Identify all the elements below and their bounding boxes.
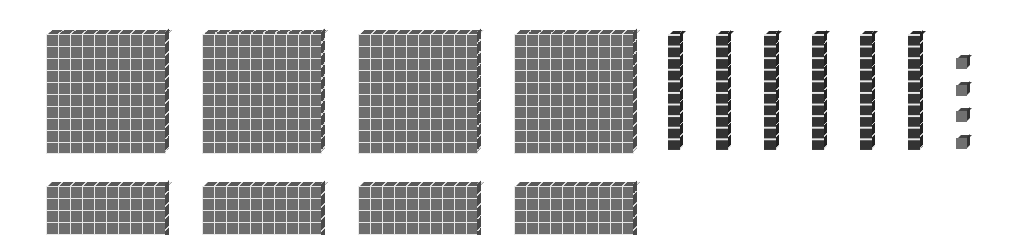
hundreds-flat-side-face: [477, 180, 481, 235]
ones-unit-cube-side-face: [967, 134, 970, 148]
hundreds-flat-side-face: [633, 28, 637, 152]
tens-rod-top-face: [862, 31, 878, 34]
ones-unit-cube: [956, 138, 967, 149]
hundreds-flat-top-face: [204, 182, 328, 186]
hundreds-flat: [202, 34, 322, 154]
hundreds-flat-top-face: [204, 30, 328, 34]
tens-rod: [908, 34, 921, 150]
hundreds-flat-top-face: [516, 182, 640, 186]
tens-rod-side-face: [680, 30, 683, 149]
tens-rod-top-face: [910, 31, 926, 34]
tens-rod-top-face: [718, 31, 734, 34]
ones-unit-cube: [956, 58, 967, 69]
tens-rod-side-face: [728, 30, 731, 149]
tens-rod-top-face: [670, 31, 686, 34]
tens-rod: [860, 34, 873, 150]
hundreds-flat: [46, 34, 166, 154]
tens-rod-side-face: [824, 30, 827, 149]
tens-rod-side-face: [872, 30, 875, 149]
tens-rod: [716, 34, 729, 150]
hundreds-flat: [202, 186, 322, 235]
hundreds-flat-top-face: [48, 30, 172, 34]
tens-rod: [668, 34, 681, 150]
tens-rod-side-face: [920, 30, 923, 149]
hundreds-flat-side-face: [321, 28, 325, 152]
hundreds-flat-side-face: [165, 180, 169, 235]
hundreds-flat-side-face: [165, 28, 169, 152]
hundreds-flat-top-face: [516, 30, 640, 34]
hundreds-flat: [46, 186, 166, 235]
ones-unit-cube-side-face: [967, 107, 970, 121]
hundreds-flat-side-face: [321, 180, 325, 235]
tens-rod-side-face: [776, 30, 779, 149]
hundreds-flat-top-face: [48, 182, 172, 186]
ones-unit-cube-side-face: [967, 81, 970, 95]
tens-rod: [764, 34, 777, 150]
tens-rod-top-face: [766, 31, 782, 34]
hundreds-flat: [358, 34, 478, 154]
tens-rod-top-face: [814, 31, 830, 34]
hundreds-flat-top-face: [360, 30, 484, 34]
tens-rod: [812, 34, 825, 150]
hundreds-flat-side-face: [633, 180, 637, 235]
hundreds-flat: [514, 186, 634, 235]
ones-unit-cube: [956, 111, 967, 122]
hundreds-flat: [358, 186, 478, 235]
hundreds-flat: [514, 34, 634, 154]
hundreds-flat-top-face: [360, 182, 484, 186]
hundreds-flat-side-face: [477, 28, 481, 152]
ones-unit-cube: [956, 85, 967, 96]
ones-unit-cube-side-face: [967, 54, 970, 68]
